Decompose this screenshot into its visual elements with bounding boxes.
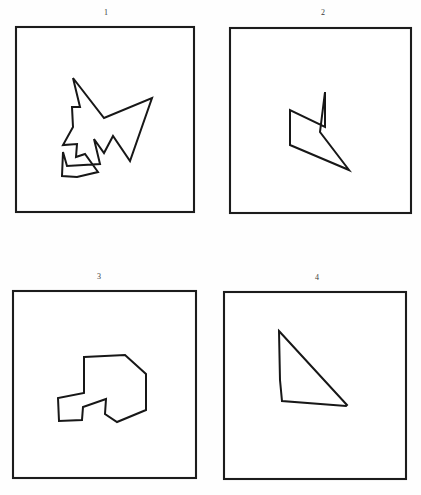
panel-drawing-4 (0, 0, 421, 495)
figure-panel-4: 4 (0, 0, 421, 495)
panel-frame-border (224, 292, 406, 479)
figure-sheet: 1234 (0, 0, 421, 495)
